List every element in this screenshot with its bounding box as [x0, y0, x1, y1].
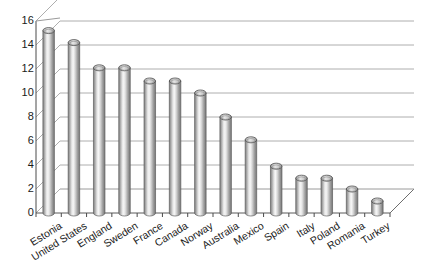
x-axis-category-label: Turkey [359, 220, 392, 246]
x-axis-category-label: Spain [262, 220, 291, 244]
bar-chart: 1614121086420 EstoniaUnited StatesEnglan… [0, 0, 432, 278]
x-axis-labels: EstoniaUnited StatesEnglandSwedenFranceC… [0, 0, 432, 278]
